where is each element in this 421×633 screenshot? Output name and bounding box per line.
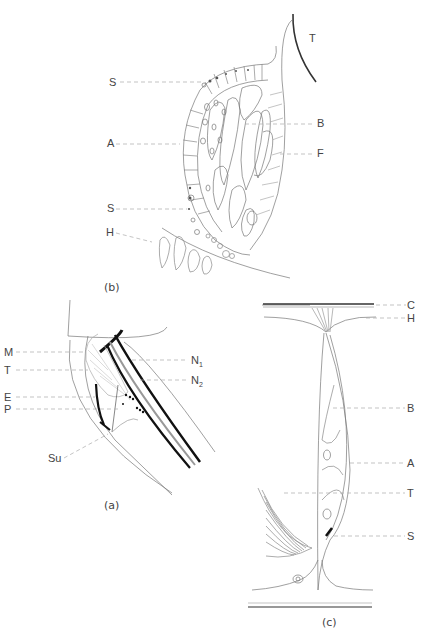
panel-b-drawing	[116, 14, 316, 305]
label-a-n1-base: N	[191, 354, 199, 366]
label-a-su: Su	[48, 453, 61, 464]
label-c-s: S	[407, 531, 414, 542]
label-a-n2-base: N	[191, 374, 199, 386]
caption-b: (b)	[104, 282, 120, 293]
label-a-n1-sub: 1	[199, 361, 203, 368]
label-c-h: H	[407, 313, 415, 324]
label-c-a: A	[407, 458, 414, 469]
figure-drawing	[0, 0, 421, 633]
panel-a-drawing	[16, 300, 215, 495]
label-a-t: T	[4, 365, 11, 376]
label-b-a: A	[107, 138, 114, 149]
label-b-h: H	[106, 227, 114, 238]
caption-c: (c)	[322, 617, 337, 628]
caption-a: (a)	[104, 500, 119, 511]
label-a-n1: N1	[191, 355, 203, 368]
label-b-b: B	[317, 118, 324, 129]
label-c-t: T	[407, 488, 414, 499]
label-b-s-top: S	[109, 77, 116, 88]
label-a-p: P	[4, 404, 11, 415]
label-c-c: C	[407, 300, 415, 311]
label-a-e: E	[4, 392, 11, 403]
label-c-b: B	[407, 403, 414, 414]
label-b-f: F	[317, 148, 324, 159]
label-b-t: T	[309, 33, 316, 44]
label-a-n2: N2	[191, 375, 203, 388]
panel-c-drawing	[248, 304, 406, 607]
label-a-m: M	[4, 347, 13, 358]
label-b-s-bottom: S	[107, 203, 114, 214]
label-a-n2-sub: 2	[199, 381, 203, 388]
